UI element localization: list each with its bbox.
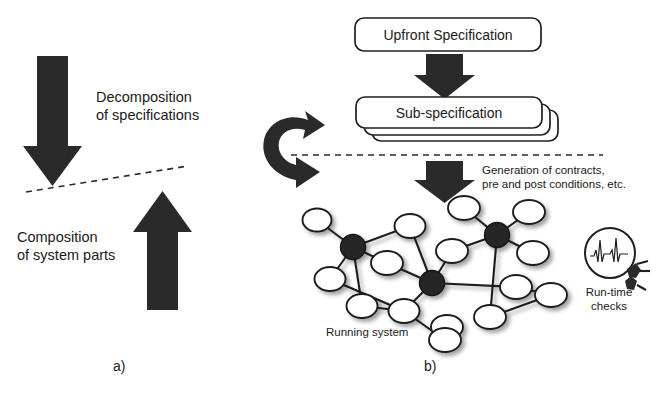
network-hub-node xyxy=(420,271,445,296)
network-node xyxy=(500,275,532,299)
decomposition-label-line1: Decomposition xyxy=(96,89,192,105)
network-node xyxy=(513,200,545,224)
composition-label-line1: Composition xyxy=(17,229,98,245)
network-hub-node xyxy=(485,223,510,248)
composition-up-arrow-icon xyxy=(133,191,192,310)
network-node xyxy=(315,267,346,291)
generation-note-line1: Generation of contracts, xyxy=(482,164,605,176)
network-node xyxy=(429,328,461,352)
network-node xyxy=(371,251,403,275)
arrow-upfront-to-sub-icon xyxy=(414,54,475,99)
network-node xyxy=(436,239,468,263)
cycle-refresh-arrow-icon xyxy=(263,111,325,188)
network-node xyxy=(303,209,332,232)
network-node xyxy=(389,299,420,323)
panel-b-group: Upfront Specification Sub-specification xyxy=(263,18,650,374)
decomposition-down-arrow-icon xyxy=(23,56,82,186)
network-node xyxy=(474,305,506,329)
sub-specification-stack[interactable]: Sub-specification xyxy=(356,97,558,141)
panel-b-caption: b) xyxy=(424,358,436,374)
decomposition-label-line2: of specifications xyxy=(96,107,199,123)
network-hub-node xyxy=(341,235,366,260)
sub-specification-label: Sub-specification xyxy=(396,105,503,121)
composition-label-line2: of system parts xyxy=(17,247,115,263)
network-node xyxy=(395,214,426,238)
generation-note-line2: pre and post conditions, etc. xyxy=(482,178,626,190)
network-node xyxy=(448,196,480,220)
network-node xyxy=(347,294,378,318)
upfront-specification-box[interactable]: Upfront Specification xyxy=(355,18,541,51)
runtime-checks-label-line2: checks xyxy=(591,300,627,312)
running-system-label: Running system xyxy=(326,326,408,338)
magnifier-ecg-icon xyxy=(585,228,650,290)
panel-a-caption: a) xyxy=(113,358,125,374)
panel-a-group: Decomposition of specifications Composit… xyxy=(17,56,199,374)
network-node xyxy=(517,241,549,265)
figure-svg: Decomposition of specifications Composit… xyxy=(0,0,670,396)
figure-canvas: Decomposition of specifications Composit… xyxy=(0,0,670,396)
upfront-specification-label: Upfront Specification xyxy=(383,27,512,43)
runtime-checks-label-line1: Run-time xyxy=(586,286,633,298)
network-node xyxy=(535,283,567,307)
